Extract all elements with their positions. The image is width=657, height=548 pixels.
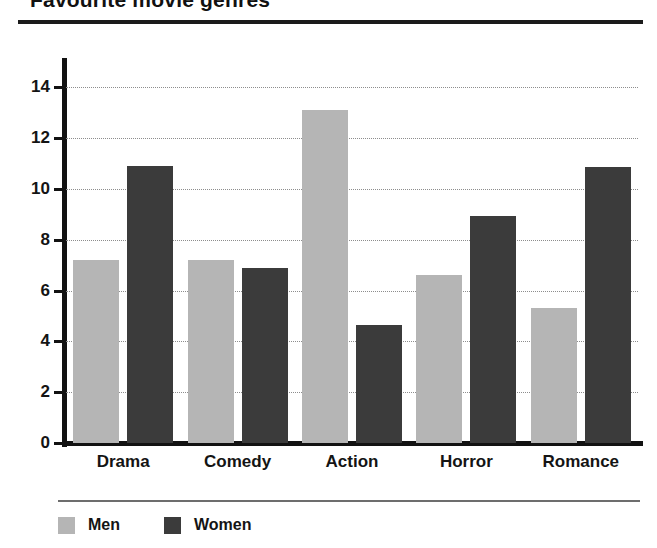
- y-axis-tick-label: 8: [4, 230, 50, 250]
- chart-legend: MenWomen: [58, 512, 251, 538]
- bar-drama-men: [73, 260, 119, 443]
- x-axis-tick-label: Comedy: [204, 452, 271, 472]
- legend-item-men[interactable]: Men: [58, 516, 120, 534]
- bar-action-men: [302, 110, 348, 443]
- page-title: Favourite movie genres: [0, 0, 657, 13]
- plot-area: [66, 62, 638, 443]
- title-container: Favourite movie genres: [0, 0, 657, 13]
- legend-item-women[interactable]: Women: [164, 516, 251, 534]
- gridline: [66, 87, 638, 88]
- y-axis-tick: [54, 188, 63, 191]
- y-axis-tick: [54, 239, 63, 242]
- y-axis-tick: [54, 442, 63, 445]
- y-axis-tick: [54, 86, 63, 89]
- legend-swatch-women-icon: [164, 517, 181, 534]
- legend-label: Men: [88, 516, 120, 534]
- legend-divider: [58, 500, 640, 502]
- bar-action-women: [356, 325, 402, 443]
- bar-romance-men: [531, 308, 577, 443]
- x-axis-tick-label: Romance: [543, 452, 620, 472]
- bar-horror-men: [416, 275, 462, 443]
- title-divider: [18, 20, 643, 24]
- x-axis-labels: DramaComedyActionHorrorRomance: [66, 452, 638, 480]
- y-axis-tick: [54, 137, 63, 140]
- y-axis-tick-label: 2: [4, 382, 50, 402]
- y-axis-tick: [54, 391, 63, 394]
- y-axis-tick-label: 12: [4, 128, 50, 148]
- x-axis-tick-label: Action: [326, 452, 379, 472]
- y-axis-tick-label: 10: [4, 179, 50, 199]
- y-axis-tick-label: 6: [4, 281, 50, 301]
- bar-drama-women: [127, 166, 173, 443]
- y-axis-tick-label: 14: [4, 77, 50, 97]
- y-axis-tick: [54, 290, 63, 293]
- x-axis-tick-label: Horror: [440, 452, 493, 472]
- bar-comedy-women: [242, 268, 288, 443]
- y-axis-tick: [54, 340, 63, 343]
- y-axis-labels: 02468101214: [0, 0, 50, 548]
- bar-comedy-men: [188, 260, 234, 443]
- y-axis-tick-label: 0: [4, 433, 50, 453]
- legend-swatch-men-icon: [58, 517, 75, 534]
- x-axis-tick-label: Drama: [97, 452, 150, 472]
- bar-romance-women: [585, 167, 631, 443]
- bar-horror-women: [470, 216, 516, 443]
- y-axis-tick-label: 4: [4, 331, 50, 351]
- gridline: [66, 138, 638, 139]
- legend-label: Women: [194, 516, 251, 534]
